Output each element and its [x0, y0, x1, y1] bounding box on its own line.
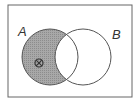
set-b-label: B: [112, 27, 121, 42]
set-a-label: A: [18, 24, 27, 39]
venn-diagram: [0, 0, 138, 102]
